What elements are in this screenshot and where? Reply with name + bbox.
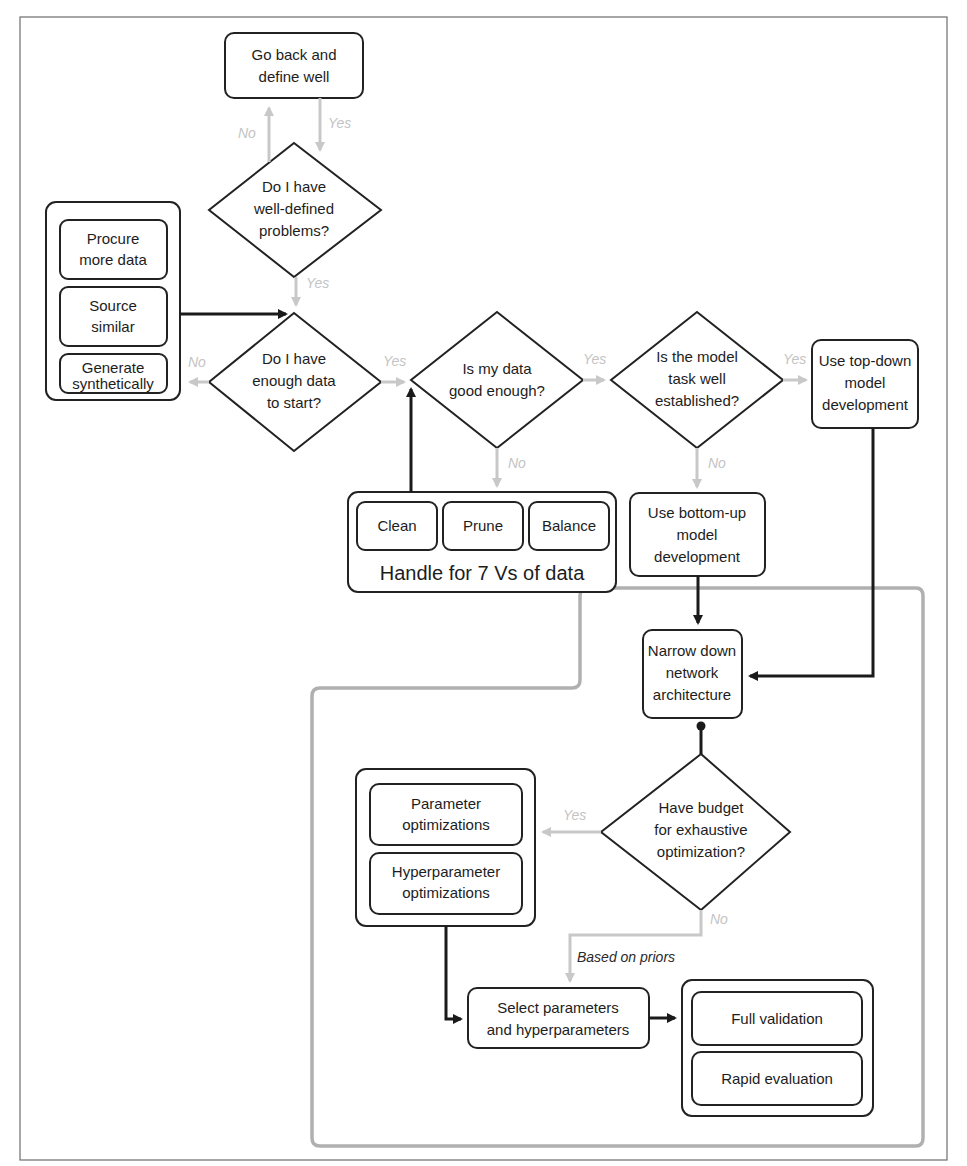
- svg-text:Source: Source: [89, 297, 137, 314]
- node-select-params: Select parameters and hyperparameters: [468, 988, 649, 1048]
- svg-text:development: development: [654, 548, 741, 565]
- svg-text:model: model: [677, 526, 718, 543]
- svg-text:Balance: Balance: [542, 517, 596, 534]
- svg-text:Use bottom-up: Use bottom-up: [648, 504, 746, 521]
- svg-text:No: No: [708, 455, 726, 471]
- svg-text:Yes: Yes: [563, 807, 586, 823]
- decision-data-good: Is my data good enough?: [411, 312, 583, 448]
- svg-text:network: network: [666, 664, 719, 681]
- flowchart: Go back and define well Do I have well-d…: [0, 0, 967, 1166]
- optimization-group: Parameter optimizations Hyperparameter o…: [356, 769, 535, 926]
- svg-text:Full validation: Full validation: [731, 1010, 823, 1027]
- svg-text:Do I have: Do I have: [262, 350, 326, 367]
- svg-text:Go back and: Go back and: [251, 46, 336, 63]
- svg-text:Narrow down: Narrow down: [648, 642, 736, 659]
- connector-dot-icon: [697, 722, 706, 731]
- svg-text:No: No: [508, 455, 526, 471]
- svg-text:Have budget: Have budget: [658, 799, 744, 816]
- node-narrow-down: Narrow down network architecture: [643, 630, 742, 718]
- svg-text:Procure: Procure: [87, 230, 140, 247]
- svg-text:more data: more data: [79, 251, 147, 268]
- svg-text:No: No: [710, 911, 728, 927]
- node-top-down: Use top-down model development: [812, 340, 918, 428]
- svg-text:development: development: [822, 396, 909, 413]
- decision-well-defined: Do I have well-defined problems?: [209, 143, 381, 277]
- svg-text:and hyperparameters: and hyperparameters: [487, 1021, 630, 1038]
- svg-text:good enough?: good enough?: [449, 382, 545, 399]
- node-param-opt: [370, 784, 522, 845]
- svg-text:for exhaustive: for exhaustive: [654, 821, 747, 838]
- node-go-back: Go back and define well: [225, 33, 363, 98]
- svg-text:task well: task well: [668, 370, 726, 387]
- svg-text:problems?: problems?: [259, 222, 329, 239]
- svg-text:optimization?: optimization?: [657, 843, 745, 860]
- svg-text:Select parameters: Select parameters: [497, 999, 619, 1016]
- svg-text:Rapid evaluation: Rapid evaluation: [721, 1070, 833, 1087]
- svg-text:to start?: to start?: [267, 394, 321, 411]
- svg-text:Do I have: Do I have: [262, 178, 326, 195]
- svg-text:optimizations: optimizations: [402, 884, 490, 901]
- decision-task-established: Is the model task well established?: [611, 312, 783, 448]
- svg-text:define well: define well: [259, 68, 330, 85]
- svg-text:architecture: architecture: [653, 686, 731, 703]
- svg-text:Based on priors: Based on priors: [577, 949, 675, 965]
- svg-text:Yes: Yes: [328, 115, 351, 131]
- edge-top-down-to-narrow: [750, 428, 873, 676]
- svg-text:Generate: Generate: [82, 359, 145, 376]
- svg-text:Prune: Prune: [463, 517, 503, 534]
- svg-text:enough data: enough data: [252, 372, 336, 389]
- node-source-similar: [60, 287, 167, 346]
- svg-text:Clean: Clean: [377, 517, 416, 534]
- svg-text:Is the model: Is the model: [656, 348, 738, 365]
- svg-text:optimizations: optimizations: [402, 816, 490, 833]
- svg-text:Is my data: Is my data: [462, 360, 532, 377]
- svg-text:Yes: Yes: [383, 353, 406, 369]
- svg-text:established?: established?: [655, 392, 739, 409]
- svg-text:Handle for 7 Vs of data: Handle for 7 Vs of data: [380, 562, 585, 584]
- svg-text:Use top-down: Use top-down: [819, 352, 912, 369]
- svg-text:Yes: Yes: [306, 275, 329, 291]
- svg-text:well-defined: well-defined: [253, 200, 334, 217]
- edge-no-based-on-priors: [570, 910, 701, 981]
- svg-text:Parameter: Parameter: [411, 795, 481, 812]
- svg-text:model: model: [845, 374, 886, 391]
- edge-optimization-to-select: [446, 926, 461, 1019]
- node-bottom-up: Use bottom-up model development: [630, 493, 765, 576]
- svg-text:similar: similar: [91, 318, 134, 335]
- handle-7vs-group: Clean Prune Balance Handle for 7 Vs of d…: [348, 492, 616, 592]
- svg-text:synthetically: synthetically: [72, 375, 154, 392]
- decision-budget: Have budget for exhaustive optimization?: [601, 754, 790, 910]
- svg-text:No: No: [238, 125, 256, 141]
- node-procure: [60, 220, 167, 279]
- svg-text:Hyperparameter: Hyperparameter: [392, 863, 500, 880]
- svg-text:Yes: Yes: [583, 351, 606, 367]
- svg-text:Yes: Yes: [783, 351, 806, 367]
- validation-group: Full validation Rapid evaluation: [682, 980, 873, 1116]
- svg-text:No: No: [188, 354, 206, 370]
- data-acquisition-group: Procure more data Source similar Generat…: [46, 202, 180, 400]
- decision-enough-data: Do I have enough data to start?: [209, 313, 381, 451]
